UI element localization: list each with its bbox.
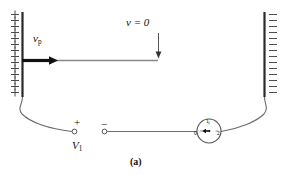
voltage-label: V1 xyxy=(72,140,82,153)
positive-terminal-node xyxy=(72,129,77,134)
right-plate-group xyxy=(265,12,278,97)
particle-velocity-label: vp xyxy=(33,33,42,46)
right-circuit-wire xyxy=(221,97,266,132)
meter-scale-label-1: 1 xyxy=(206,118,209,124)
voltage-subscript: 1 xyxy=(79,145,83,153)
left-plate-charges xyxy=(11,11,19,97)
velocity-zero-label: v = 0 xyxy=(126,17,149,28)
left-plate-group xyxy=(11,11,23,98)
figure-caption: (a) xyxy=(130,157,142,167)
particle-velocity-subscript: p xyxy=(38,38,42,46)
velocity-arrow-head xyxy=(49,56,58,64)
voltage-symbol: V xyxy=(72,139,79,151)
meter-scale-label-2: 2 xyxy=(217,130,220,136)
left-circuit-wire xyxy=(20,97,72,132)
positive-terminal-label: + xyxy=(74,117,80,128)
stop-point-indicator xyxy=(156,33,162,59)
particle-beam-group xyxy=(22,56,158,64)
physics-figure: v = 0 vp + − V1 0 1 2 (a) xyxy=(0,0,285,177)
meter-pivot xyxy=(209,130,211,132)
meter-scale-label-0: 0 xyxy=(194,130,197,136)
stop-pointer-head xyxy=(156,52,162,59)
right-plate-charges xyxy=(269,15,277,93)
negative-terminal-label: − xyxy=(101,119,107,130)
